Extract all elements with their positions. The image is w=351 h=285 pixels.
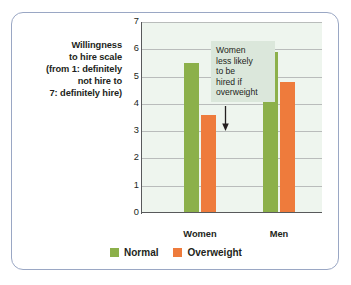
y-tick-5: 5	[126, 72, 139, 81]
y-axis-label-line: not hire to	[18, 75, 122, 87]
x-axis-tick-labels: Women Men	[126, 229, 322, 243]
legend-label-overweight: Overweight	[187, 247, 241, 258]
bar-women-overweight	[201, 115, 216, 213]
y-tick-6: 6	[126, 45, 139, 54]
legend-swatch-normal-icon	[110, 248, 119, 257]
plot-area: Women less likely to be hired if overwei…	[142, 22, 322, 213]
gridline-3	[142, 131, 322, 132]
y-tick-0: 0	[126, 208, 139, 217]
annotation-line: to be	[216, 66, 271, 77]
x-tick-women: Women	[183, 229, 216, 239]
annotation-line: hired if	[216, 77, 271, 88]
y-tick-7: 7	[126, 17, 139, 26]
y-axis-label-line: to hire scale	[18, 51, 122, 63]
gridline-4	[142, 104, 322, 105]
y-axis-line	[141, 22, 142, 214]
down-arrow-icon	[221, 106, 230, 132]
y-axis-tick-labels: 0 1 2 3 4 5 6 7	[126, 22, 139, 213]
y-tick-1: 1	[126, 181, 139, 190]
annotation-line: Women	[216, 45, 271, 56]
x-tick-men: Men	[270, 229, 289, 239]
y-tick-2: 2	[126, 154, 139, 163]
figure-card: Willingness to hire scale (from 1: defin…	[11, 12, 339, 270]
chart-legend: Normal Overweight	[12, 247, 340, 258]
y-axis-label-line: 7: definitely hire)	[18, 87, 122, 99]
y-tick-3: 3	[126, 126, 139, 135]
gridline-2	[142, 158, 322, 159]
annotation-callout: Women less likely to be hired if overwei…	[211, 41, 275, 102]
legend-swatch-overweight-icon	[173, 248, 182, 257]
annotation-line: less likely	[216, 56, 271, 67]
y-axis-label: Willingness to hire scale (from 1: defin…	[18, 39, 122, 99]
legend-label-normal: Normal	[124, 247, 158, 258]
x-axis-line	[141, 212, 322, 213]
annotation-line: overweight	[216, 87, 271, 98]
gridline-1	[142, 186, 322, 187]
legend-item-overweight: Overweight	[173, 247, 241, 258]
y-axis-label-line: (from 1: definitely	[18, 63, 122, 75]
y-tick-4: 4	[126, 99, 139, 108]
chart-plot: 0 1 2 3 4 5 6 7 Women l	[126, 22, 322, 227]
gridline-7	[142, 22, 322, 23]
bar-women-normal	[184, 63, 199, 213]
legend-item-normal: Normal	[110, 247, 158, 258]
bar-men-overweight	[280, 82, 295, 213]
y-axis-label-line: Willingness	[18, 39, 122, 51]
